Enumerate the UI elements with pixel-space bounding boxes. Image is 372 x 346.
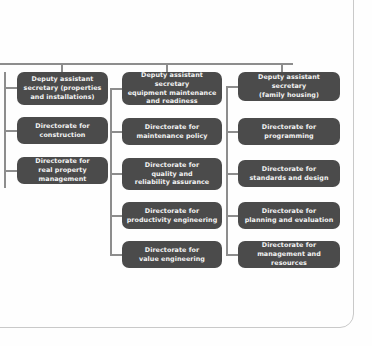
node-label: Deputy assistant secretary equipment mai… <box>126 71 218 106</box>
node-directorate-programming[interactable]: Directorate for programming <box>238 118 340 145</box>
node-label: Directorate for productivity engineering <box>127 207 218 225</box>
node-directorate-management-and-resources[interactable]: Directorate for management and resources <box>238 241 340 268</box>
node-directorate-real-property-management[interactable]: Directorate for real property management <box>17 157 108 184</box>
node-label: Directorate for real property management <box>21 157 104 183</box>
node-dep-asst-sec-properties[interactable]: Deputy assistant secretary (properties a… <box>17 72 108 105</box>
node-directorate-maintenance-policy[interactable]: Directorate for maintenance policy <box>122 118 222 145</box>
connector-top-bus <box>0 63 293 65</box>
node-directorate-planning-and-evaluation[interactable]: Directorate for planning and evaluation <box>238 202 340 229</box>
org-chart-page: Deputy assistant secretary (properties a… <box>0 0 372 346</box>
connector-stub-c1-r2 <box>4 170 18 172</box>
node-label: Directorate for construction <box>35 122 89 140</box>
node-directorate-quality-and-reliability-assurance[interactable]: Directorate for quality and reliability … <box>122 158 222 190</box>
node-label: Directorate for value engineering <box>139 246 205 264</box>
node-directorate-standards-and-design[interactable]: Directorate for standards and design <box>238 160 340 187</box>
node-label: Directorate for maintenance policy <box>136 123 207 141</box>
connector-spine-column-2 <box>110 88 112 255</box>
connector-stub-c1-r0 <box>4 87 18 89</box>
node-label: Directorate for programming <box>262 123 316 141</box>
connector-spine-column-3 <box>226 86 228 255</box>
connector-stub-c1-r1 <box>4 130 18 132</box>
node-label: Deputy assistant secretary (family housi… <box>242 73 336 99</box>
node-dep-asst-sec-family-housing[interactable]: Deputy assistant secretary (family housi… <box>238 72 340 101</box>
node-dep-asst-sec-equipment-maintenance[interactable]: Deputy assistant secretary equipment mai… <box>122 72 222 105</box>
node-label: Directorate for management and resources <box>242 241 336 267</box>
node-directorate-value-engineering[interactable]: Directorate for value engineering <box>122 241 222 268</box>
node-directorate-construction[interactable]: Directorate for construction <box>17 117 108 144</box>
node-label: Directorate for quality and reliability … <box>135 161 209 187</box>
node-label: Directorate for standards and design <box>249 165 328 183</box>
node-label: Directorate for planning and evaluation <box>245 207 334 225</box>
node-directorate-productivity-engineering[interactable]: Directorate for productivity engineering <box>122 202 222 229</box>
node-label: Deputy assistant secretary (properties a… <box>24 75 102 101</box>
